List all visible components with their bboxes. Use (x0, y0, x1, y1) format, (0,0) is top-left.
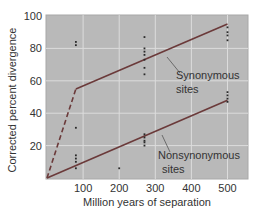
data-point (75, 154, 77, 156)
x-tick-label: 200 (110, 182, 128, 194)
data-point (75, 158, 77, 160)
data-point (144, 145, 146, 147)
data-point (227, 98, 229, 100)
data-point (227, 101, 229, 103)
data-point (75, 167, 77, 169)
x-tick-label: 400 (182, 182, 200, 194)
y-tick-label: 100 (24, 10, 42, 22)
data-point (118, 167, 120, 169)
data-point (144, 59, 146, 61)
chart-svg: 20406080100 100200300400500 Synonymous s… (0, 0, 256, 214)
data-point (227, 91, 229, 93)
data-point (75, 161, 77, 163)
nonsynonymous-label-line2: sites (162, 163, 185, 175)
x-axis-label: Million years of separation (83, 196, 211, 208)
y-tick-labels: 20406080100 (24, 10, 42, 152)
x-tick-labels: 100200300400500 (74, 182, 237, 194)
x-tick-label: 500 (218, 182, 236, 194)
data-point (144, 54, 146, 56)
data-point (144, 36, 146, 38)
data-point (144, 140, 146, 142)
data-point (144, 141, 146, 143)
data-point (227, 26, 229, 28)
nonsynonymous-label-line1: Nonsynonymous (158, 149, 240, 161)
y-tick-label: 40 (30, 107, 42, 119)
data-point (227, 39, 229, 41)
divergence-chart: 20406080100 100200300400500 Synonymous s… (0, 0, 256, 214)
synonymous-label-line2: sites (176, 83, 199, 95)
data-point (144, 137, 146, 139)
data-point (144, 51, 146, 53)
data-point (75, 44, 77, 46)
x-tick-label: 100 (74, 182, 92, 194)
data-point (227, 94, 229, 96)
data-point (144, 133, 146, 135)
y-tick-label: 80 (30, 42, 42, 54)
y-tick-label: 20 (30, 140, 42, 152)
data-point (144, 73, 146, 75)
synonymous-label-line1: Synonymous (176, 69, 240, 81)
data-point (144, 48, 146, 50)
data-point (227, 31, 229, 33)
y-tick-label: 60 (30, 75, 42, 87)
data-point (75, 127, 77, 129)
x-tick-label: 300 (146, 182, 164, 194)
data-point (227, 35, 229, 37)
y-axis-label: Corrected percent divergence (6, 28, 18, 173)
data-point (144, 67, 146, 69)
data-point (75, 41, 77, 43)
